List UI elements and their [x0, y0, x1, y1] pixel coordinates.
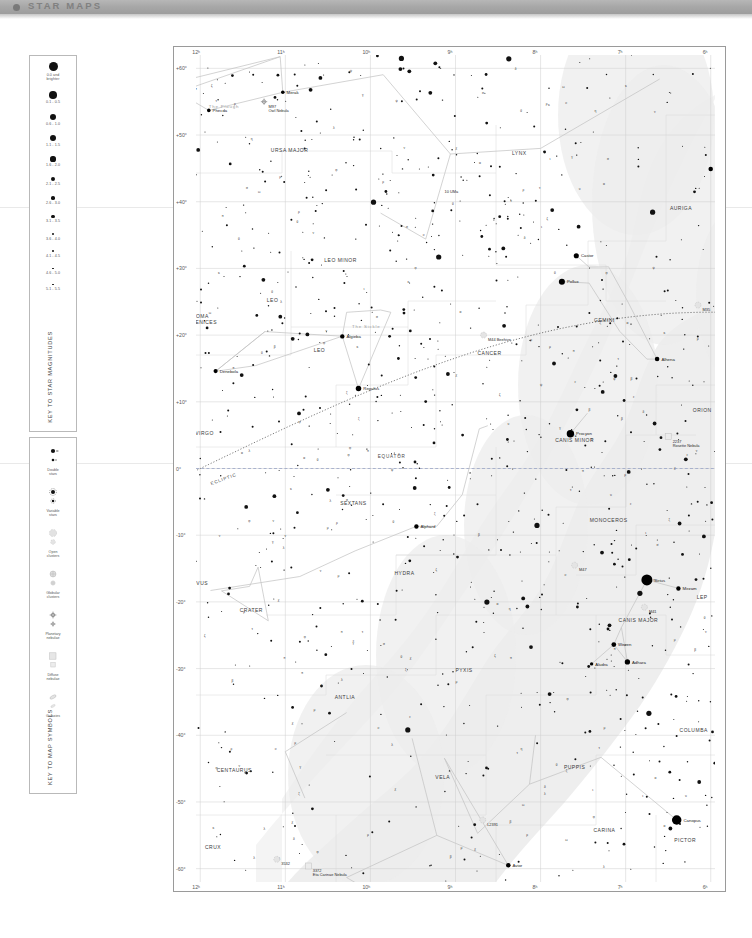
constellation-name: PUPPIS: [564, 764, 586, 770]
star-label: Mirzam: [683, 586, 698, 591]
named-star: Castor: [574, 253, 594, 258]
svg-text:θ: θ: [271, 290, 273, 294]
svg-text:ι: ι: [364, 287, 365, 291]
constellation-name: ORION: [693, 407, 712, 413]
svg-text:β: β: [621, 417, 623, 421]
ra-tick-bottom: 11ʰ: [277, 884, 284, 890]
svg-text:ρ: ρ: [546, 102, 548, 106]
magnitude-key-row: 3.1 - 3.5: [30, 215, 76, 224]
svg-text:η: η: [594, 109, 596, 113]
svg-text:ψ: ψ: [396, 99, 399, 103]
constellation-name: GEMINI: [594, 317, 615, 323]
magnitude-label: 5.1 - 5.5: [30, 287, 76, 291]
ra-tick-top: 11ʰ: [277, 49, 284, 55]
svg-text:ο: ο: [565, 573, 567, 577]
star-dot: [641, 574, 652, 585]
diffuse-nebulae-symbol-label: Diffuse nebulae: [30, 673, 76, 682]
star-label: Procyon: [576, 431, 592, 436]
planetary-nebulae-symbol-icon: [30, 610, 76, 632]
constellation-name: CANCER: [477, 350, 501, 356]
svg-text:λ: λ: [248, 449, 250, 453]
key-to-map-symbols: Double starsVariable starsOpen clustersG…: [29, 437, 77, 794]
bullet-icon: [13, 4, 20, 11]
svg-text:σ: σ: [246, 186, 248, 190]
svg-text:ζ: ζ: [211, 83, 213, 88]
key-to-star-magnitudes-title: KEY TO STAR MAGNITUDES: [47, 331, 53, 423]
svg-text:ν: ν: [273, 519, 275, 523]
magnitude-label: 2.6 - 3.0: [30, 201, 76, 205]
chart-annotation: EQUATOR: [378, 454, 406, 459]
open-clusters-symbol-icon: [30, 528, 76, 550]
star-dot: [625, 659, 630, 664]
galaxies-symbol: Galaxies: [30, 692, 76, 718]
ra-tick-bottom: 9ʰ: [448, 884, 453, 890]
diffuse-nebulae-symbol: Diffuse nebulae: [30, 651, 76, 682]
svg-text:ζ: ζ: [204, 633, 206, 638]
magnitude-dot: [51, 215, 54, 218]
svg-text:α: α: [241, 451, 243, 455]
svg-text:μ: μ: [338, 574, 340, 578]
svg-text:μ: μ: [327, 526, 329, 530]
deep-sky-object: 10 UMa: [445, 189, 459, 194]
svg-text:ν: ν: [313, 231, 315, 235]
open-cluster-icon: [641, 604, 647, 610]
svg-text:ρ: ρ: [298, 210, 300, 214]
dec-tick: +30°: [176, 265, 187, 271]
ra-tick-bottom: 6ʰ: [703, 884, 708, 890]
open-clusters-symbol: Open clusters: [30, 528, 76, 559]
named-star: Denebola: [214, 369, 239, 374]
svg-text:π: π: [573, 349, 575, 353]
star-label: Megrez: [196, 86, 197, 91]
deep-sky-label: M97Owl Nebula: [269, 104, 290, 113]
svg-text:α: α: [303, 456, 305, 460]
star-label: Algieba: [347, 334, 362, 339]
svg-text:π: π: [341, 630, 343, 634]
chart-annotation: The Sickle: [352, 324, 381, 329]
star-label: Wezen: [618, 642, 632, 647]
variable-stars-symbol-label: Variable stars: [30, 509, 76, 518]
svg-text:β: β: [694, 648, 696, 652]
constellation-name: CANIS MINOR: [555, 437, 594, 443]
svg-text:κ: κ: [356, 345, 358, 349]
magnitude-label: 0.0 and brighter: [30, 73, 76, 82]
svg-text:ρ: ρ: [382, 180, 384, 184]
constellation-name: URSA MAJOR: [271, 147, 309, 153]
svg-text:μ: μ: [294, 741, 296, 745]
ra-tick-top: 6ʰ: [703, 49, 708, 55]
svg-text:η: η: [521, 747, 523, 751]
svg-text:θ: θ: [452, 202, 454, 206]
open-cluster-icon: [572, 562, 578, 568]
key-to-map-symbols-title: KEY TO MAP SYMBOLS: [47, 709, 53, 785]
star-dot: [590, 662, 593, 665]
svg-text:π: π: [582, 469, 584, 473]
magnitude-dot: [50, 135, 56, 141]
svg-text:α: α: [460, 310, 462, 314]
svg-text:φ: φ: [349, 446, 351, 450]
svg-text:φ: φ: [566, 697, 568, 701]
svg-text:ι: ι: [642, 794, 643, 798]
svg-text:κ: κ: [218, 271, 220, 275]
svg-text:κ: κ: [548, 103, 550, 107]
svg-text:λ: λ: [603, 865, 605, 869]
variable-stars-symbol-icon: [30, 487, 76, 509]
magnitude-label: 4.6 - 5.0: [30, 271, 76, 275]
deep-sky-label: 3532: [281, 861, 290, 866]
deep-sky-label: L2391: [487, 822, 498, 827]
constellation-name: CANIS MAJOR: [619, 617, 659, 623]
svg-text:ν: ν: [284, 534, 286, 538]
magnitude-dot: [49, 91, 57, 99]
magnitude-dot: [52, 284, 53, 285]
svg-text:β: β: [509, 820, 511, 824]
svg-text:λ: λ: [391, 743, 393, 747]
svg-text:χ: χ: [456, 146, 458, 150]
dec-tick: 0°: [176, 466, 181, 472]
svg-text:μ: μ: [367, 833, 369, 837]
constellation-name: CRATER: [240, 607, 263, 613]
deep-sky-label: M47: [579, 567, 587, 572]
named-star: Avior: [506, 863, 523, 868]
svg-text:β: β: [450, 855, 452, 859]
svg-text:φ: φ: [415, 266, 417, 270]
svg-text:ν: ν: [404, 146, 406, 150]
svg-text:ν: ν: [326, 329, 328, 333]
named-star: Adhara: [625, 659, 647, 664]
